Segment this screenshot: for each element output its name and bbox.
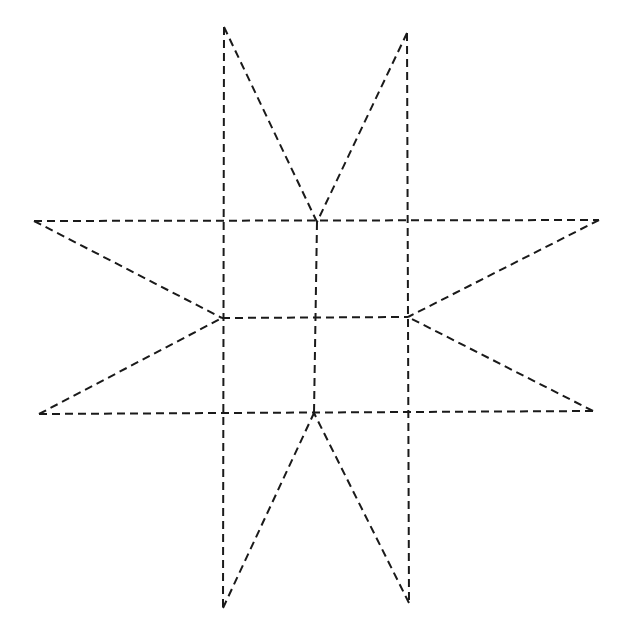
- horizontal-middle-line: [222, 317, 408, 318]
- background: [0, 0, 630, 644]
- star-diagram-canvas: [0, 0, 630, 644]
